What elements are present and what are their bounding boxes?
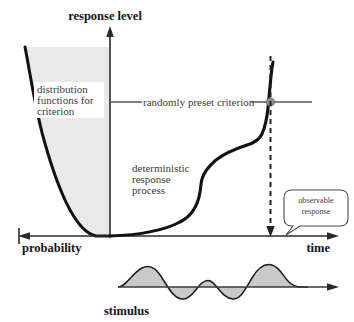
observable-response-dropline	[266, 56, 274, 237]
figure-root: response level time probability stimulus…	[0, 0, 354, 322]
time-axis-arrowhead	[327, 232, 339, 240]
response-level-label: response level	[68, 9, 142, 23]
criterion-label: randomly preset criterion	[143, 96, 255, 108]
observable-label-line1: observable	[298, 196, 334, 205]
stimulus-label: stimulus	[104, 304, 149, 318]
distribution-label-line3: criterion	[37, 105, 75, 117]
response-level-diagram: response level time probability stimulus…	[0, 0, 354, 322]
probability-label: probability	[22, 241, 82, 255]
time-label: time	[306, 241, 330, 255]
stimulus-waveform-group	[118, 265, 339, 300]
process-label-line3: process	[132, 184, 165, 196]
response-axis-arrowhead	[106, 26, 114, 37]
observable-label-line2: response	[302, 207, 331, 216]
response-process-curve	[110, 62, 273, 236]
stimulus-axis-arrowhead	[327, 283, 339, 291]
distribution-region	[25, 47, 110, 236]
